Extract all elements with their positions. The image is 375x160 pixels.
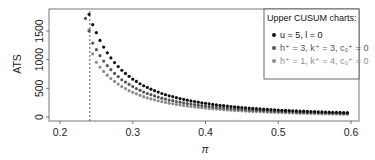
ats-chart: 0.20.30.40.50.6 050010001500 π ATS Upper…: [0, 0, 375, 160]
y-axis-label: ATS: [11, 54, 23, 74]
x-tick-label: 0.6: [344, 126, 359, 138]
legend-entry-label: u = 5, l = 0: [280, 30, 323, 40]
y-axis: 050010001500: [33, 19, 49, 120]
x-axis: 0.20.30.40.50.6: [53, 121, 359, 138]
x-tick-label: 0.3: [125, 126, 140, 138]
x-tick-label: 0.2: [53, 126, 68, 138]
legend-marker-icon: [272, 59, 276, 63]
y-tick-label: 500: [33, 79, 45, 97]
x-tick-label: 0.4: [198, 126, 213, 138]
y-tick-label: 0: [33, 114, 45, 120]
y-tick-label: 1500: [33, 19, 45, 43]
y-tick-label: 1000: [33, 48, 45, 72]
legend-entry-label: h⁺ = 3, k⁺ = 3, c₀⁺ = 0: [280, 43, 369, 53]
x-axis-label: π: [201, 143, 209, 155]
legend-marker-icon: [272, 33, 276, 37]
legend-marker-icon: [272, 46, 276, 50]
legend: Upper CUSUM charts: u = 5, l = 0h⁺ = 3, …: [264, 9, 369, 79]
x-tick-label: 0.5: [271, 126, 286, 138]
legend-title: Upper CUSUM charts:: [267, 13, 357, 23]
legend-entry-label: h⁺ = 1, k⁺ = 4, c₀⁺ = 0: [280, 56, 369, 66]
